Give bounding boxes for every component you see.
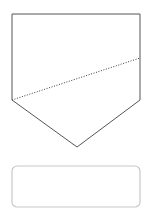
rounded-rectangle-outline [12,166,140,207]
diagram-canvas [0,0,152,215]
figure-svg [0,0,152,215]
